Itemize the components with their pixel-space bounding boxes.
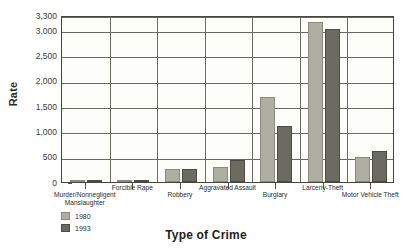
plot-area xyxy=(61,16,394,183)
y-tick-label: 0 xyxy=(13,179,57,188)
bar xyxy=(230,160,245,182)
category-separator xyxy=(205,17,206,182)
bar xyxy=(325,29,340,182)
gridline xyxy=(62,32,393,33)
legend-label: 1980 xyxy=(75,213,91,220)
bar xyxy=(87,180,102,182)
y-tick-label: 1,000 xyxy=(13,128,57,137)
y-tick-mark xyxy=(68,183,72,184)
y-tick-label: 500 xyxy=(13,153,57,162)
bar xyxy=(134,180,149,182)
x-tick-mark xyxy=(85,183,86,189)
category-separator xyxy=(252,17,253,182)
bar xyxy=(372,151,387,182)
x-tick-label: Murder/Nonnegligent Manslaughter xyxy=(48,191,122,206)
bar xyxy=(182,169,197,182)
category-separator xyxy=(300,17,301,182)
legend-item: 1980 xyxy=(61,211,91,221)
bar-chart: Rate 05001,0001,5002,0002,5003,0003,300 … xyxy=(0,0,412,251)
x-axis-title: Type of Crime xyxy=(0,228,412,242)
bar xyxy=(70,180,85,182)
x-tick-mark xyxy=(370,183,371,189)
bar xyxy=(308,22,323,182)
y-tick-label: 2,500 xyxy=(13,52,57,61)
y-axis-ticks: 05001,0001,5002,0002,5003,0003,300 xyxy=(11,0,57,251)
gridline xyxy=(62,108,393,109)
legend-swatch xyxy=(61,212,70,220)
category-separator xyxy=(110,17,111,182)
category-separator xyxy=(347,17,348,182)
bar xyxy=(117,180,132,182)
bar xyxy=(260,97,275,182)
gridline xyxy=(62,57,393,58)
gridline xyxy=(62,133,393,134)
gridline xyxy=(62,83,393,84)
x-tick-label: Burglary xyxy=(238,191,312,199)
bar xyxy=(277,126,292,182)
x-tick-mark xyxy=(180,183,181,189)
bar xyxy=(355,157,370,182)
bar xyxy=(213,167,228,182)
x-tick-label: Robbery xyxy=(143,191,217,199)
category-separator xyxy=(157,17,158,182)
gridline xyxy=(62,17,393,18)
bar xyxy=(165,169,180,182)
y-tick-label: 1,500 xyxy=(13,103,57,112)
x-tick-mark xyxy=(275,183,276,189)
y-tick-label: 3,000 xyxy=(13,27,57,36)
gridline xyxy=(62,159,393,160)
y-tick-label: 3,300 xyxy=(13,12,57,21)
y-tick-label: 2,000 xyxy=(13,77,57,86)
x-tick-label: Motor Vehicle Theft xyxy=(333,191,407,199)
